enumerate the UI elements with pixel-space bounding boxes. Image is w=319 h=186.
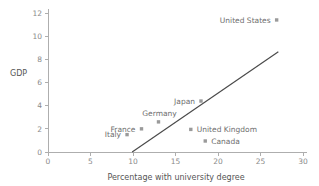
- trend-line: [132, 52, 278, 152]
- y-tick-label: 6: [37, 78, 42, 87]
- data-point-marker: [204, 139, 207, 142]
- data-point-marker: [157, 120, 160, 123]
- data-point-marker: [125, 133, 128, 136]
- y-tick-label: 10: [32, 32, 42, 41]
- y-tick-label: 4: [37, 101, 42, 110]
- plot-area: 024681012 051015202530 United StatesJapa…: [0, 0, 319, 186]
- y-tick-label: 12: [32, 9, 42, 18]
- data-point-label: Canada: [211, 137, 240, 146]
- y-axis-title: GDP: [10, 69, 27, 78]
- data-point-label: United States: [220, 16, 271, 25]
- x-tick-label: 5: [88, 157, 93, 166]
- data-point-label: Japan: [173, 97, 195, 106]
- x-axis: 051015202530: [46, 152, 308, 166]
- data-point-label: United Kingdom: [197, 125, 257, 134]
- data-point-marker: [275, 18, 278, 21]
- y-tick-label: 8: [37, 55, 42, 64]
- x-axis-title: Percentage with university degree: [107, 173, 244, 182]
- data-point-label: Germany: [142, 109, 177, 118]
- x-tick-label: 25: [256, 157, 266, 166]
- x-tick-label: 30: [298, 157, 308, 166]
- data-point-label: Italy: [105, 130, 122, 139]
- y-tick-label: 2: [37, 125, 42, 134]
- x-tick-label: 15: [171, 157, 181, 166]
- x-tick-label: 10: [128, 157, 138, 166]
- data-point-marker: [140, 127, 143, 130]
- y-axis: 024681012: [32, 9, 48, 157]
- scatter-chart: 024681012 051015202530 United StatesJapa…: [0, 0, 319, 186]
- data-point-marker: [199, 99, 202, 102]
- regression-line: [132, 52, 278, 152]
- x-tick-label: 20: [213, 157, 223, 166]
- data-point-marker: [189, 128, 192, 131]
- x-tick-label: 0: [46, 157, 51, 166]
- y-tick-label: 0: [37, 148, 42, 157]
- data-points: United StatesJapanGermanyFranceItalyUnit…: [105, 16, 279, 146]
